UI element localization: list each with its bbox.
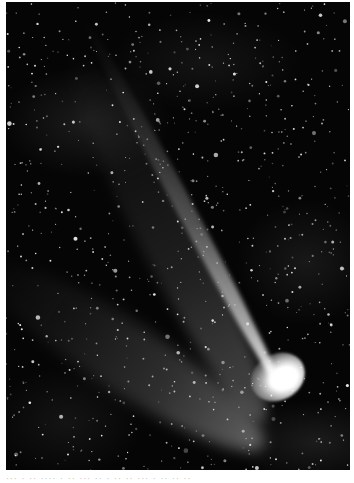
caption-text: ··· · ·· ···· · ·· ··· ·· · ·· ·· ··· · … <box>6 475 350 483</box>
comet-photo <box>6 2 350 470</box>
image-caption: ··· · ·· ···· · ·· ··· ·· · ·· ·· ··· · … <box>6 473 350 483</box>
